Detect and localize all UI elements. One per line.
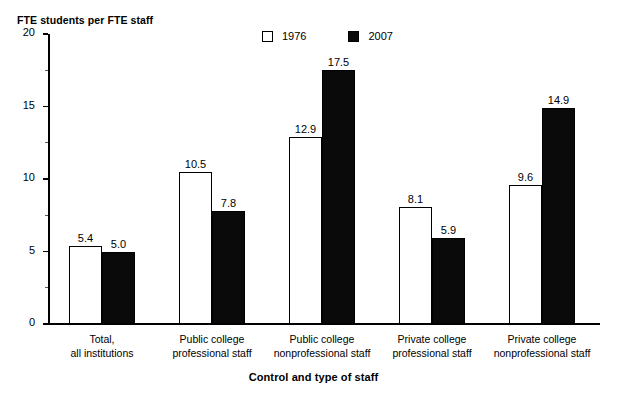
bar-2007-4[interactable]: 5.9 — [432, 238, 465, 324]
x-category-line: all institutions — [42, 347, 162, 361]
plot-area: 20151050 5.45.010.57.812.917.58.15.99.61… — [48, 34, 600, 324]
bar-group: 12.917.5 — [289, 34, 355, 324]
x-category-label-3: Public collegenonprofessional staff — [262, 333, 382, 360]
x-category-line: nonprofessional staff — [482, 347, 602, 361]
bar-value-label: 9.6 — [518, 171, 533, 183]
bar-group: 5.45.0 — [69, 34, 135, 324]
y-tick-label: 20 — [23, 25, 35, 39]
bar-group: 8.15.9 — [399, 34, 465, 324]
x-category-label-1: Total,all institutions — [42, 333, 162, 360]
bar-1976-1[interactable]: 5.4 — [69, 246, 102, 324]
bar-value-label: 5.0 — [111, 238, 126, 250]
bar-1976-3[interactable]: 12.9 — [289, 137, 322, 324]
bar-groups: 5.45.010.57.812.917.58.15.99.614.9 — [48, 34, 600, 324]
bar-group: 9.614.9 — [509, 34, 575, 324]
x-category-line: professional staff — [152, 347, 272, 361]
bar-value-label: 8.1 — [408, 193, 423, 205]
x-category-label-5: Private collegenonprofessional staff — [482, 333, 602, 360]
y-tick-label: 10 — [23, 170, 35, 184]
x-category-label-2: Public collegeprofessional staff — [152, 333, 272, 360]
x-axis-title: Control and type of staff — [0, 371, 627, 383]
x-category-line: Private college — [482, 333, 602, 347]
bar-value-label: 17.5 — [328, 56, 349, 68]
bar-2007-5[interactable]: 14.9 — [542, 108, 575, 324]
x-category-line: Public college — [262, 333, 382, 347]
y-tick-label: 0 — [29, 315, 35, 329]
y-tick-label: 5 — [29, 243, 35, 257]
x-category-label-4: Private collegeprofessional staff — [372, 333, 492, 360]
x-axis-category-labels: Total,all institutionsPublic collegeprof… — [48, 333, 600, 367]
bar-value-label: 5.9 — [441, 224, 456, 236]
x-category-line: Public college — [152, 333, 272, 347]
bar-value-label: 5.4 — [78, 232, 93, 244]
bar-2007-3[interactable]: 17.5 — [322, 70, 355, 324]
bar-2007-1[interactable]: 5.0 — [102, 252, 135, 325]
x-category-line: nonprofessional staff — [262, 347, 382, 361]
bar-value-label: 10.5 — [185, 158, 206, 170]
bar-1976-2[interactable]: 10.5 — [179, 172, 212, 324]
x-category-line: Total, — [42, 333, 162, 347]
x-category-line: Private college — [372, 333, 492, 347]
bar-value-label: 7.8 — [221, 197, 236, 209]
bar-value-label: 12.9 — [295, 123, 316, 135]
y-tick-label: 15 — [23, 98, 35, 112]
bar-group: 10.57.8 — [179, 34, 245, 324]
bar-value-label: 14.9 — [548, 94, 569, 106]
y-axis-title: FTE students per FTE staff — [17, 14, 153, 26]
bar-1976-5[interactable]: 9.6 — [509, 185, 542, 324]
figure-caption-fragment: 1976 and 2007 — [36, 0, 102, 3]
bar-1976-4[interactable]: 8.1 — [399, 207, 432, 324]
bar-2007-2[interactable]: 7.8 — [212, 211, 245, 324]
x-category-line: professional staff — [372, 347, 492, 361]
